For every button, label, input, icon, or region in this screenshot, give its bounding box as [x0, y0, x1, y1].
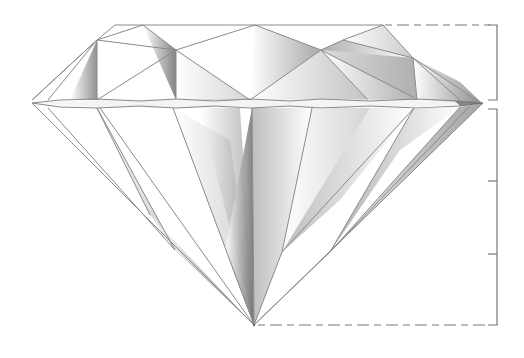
pavilion: [32, 103, 483, 325]
girdle: [32, 99, 483, 108]
culet-point: [253, 324, 255, 326]
crown: [32, 25, 483, 104]
diamond-profile-svg: [0, 0, 524, 358]
diamond-diagram: [0, 0, 524, 358]
